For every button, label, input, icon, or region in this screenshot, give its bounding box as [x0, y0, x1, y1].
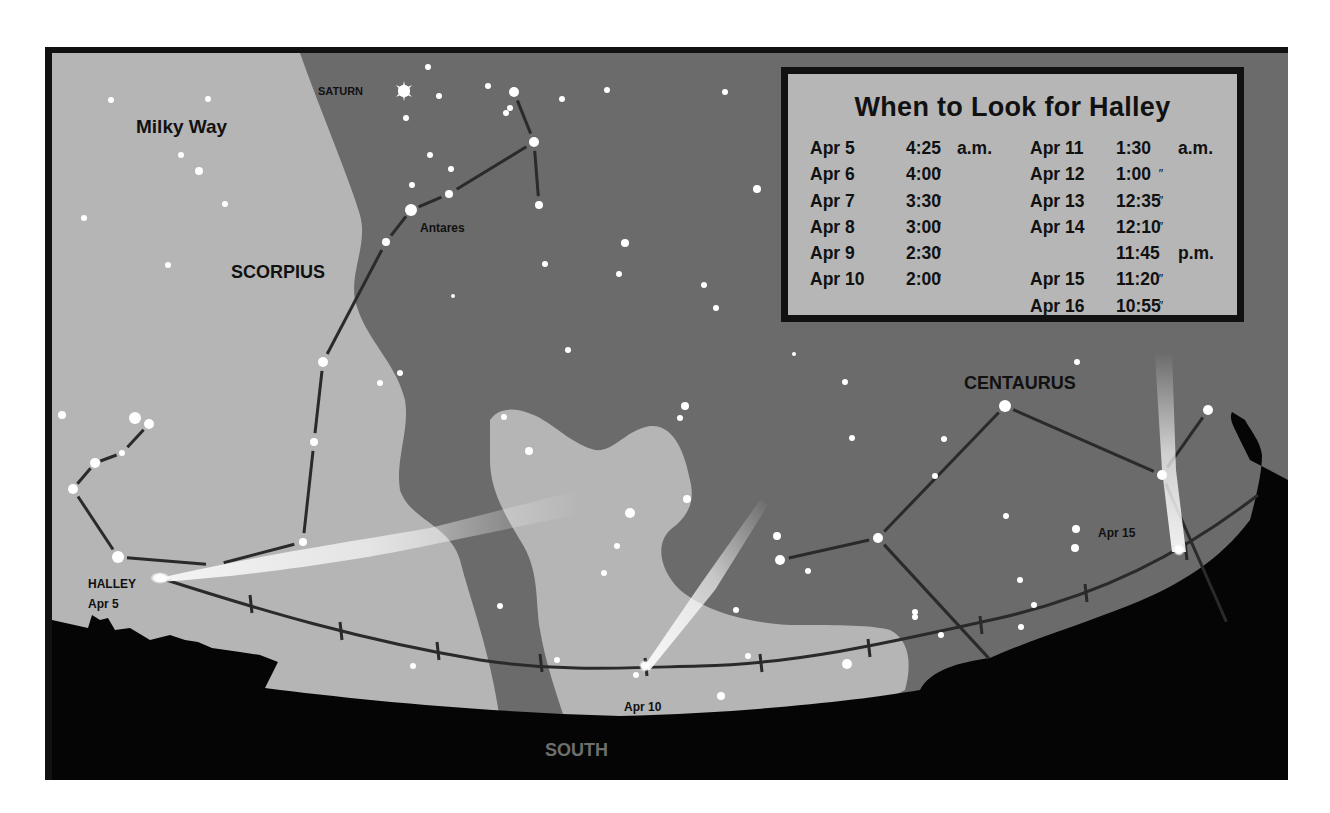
ecliptic-tick: [250, 595, 252, 613]
star: [497, 603, 503, 609]
viewing-times-title: When to Look for Halley: [788, 92, 1237, 123]
star: [681, 402, 689, 410]
scorpius-label: SCORPIUS: [231, 262, 325, 282]
viewing-time: 12:35: [1116, 191, 1161, 212]
viewing-date: Apr 12: [1030, 164, 1084, 185]
ditto-mark: ″: [1158, 166, 1163, 181]
star: [753, 185, 761, 193]
viewing-date: Apr 14: [1030, 217, 1084, 238]
star: [501, 414, 507, 420]
viewing-date: Apr 16: [1030, 296, 1084, 317]
viewing-date: Apr 6: [810, 164, 855, 185]
star: [621, 239, 629, 247]
ditto-mark: ″: [1158, 193, 1163, 208]
star: [165, 262, 171, 268]
star: [178, 152, 184, 158]
star: [503, 110, 509, 116]
ecliptic-tick: [1085, 584, 1087, 602]
ecliptic-tick: [760, 654, 762, 672]
apr10-label: Apr 10: [624, 700, 662, 714]
star: [90, 458, 100, 468]
star: [842, 659, 852, 669]
star: [938, 632, 944, 638]
star: [409, 182, 415, 188]
ditto-mark: ″: [936, 193, 941, 208]
star: [849, 435, 855, 441]
viewing-ampm: p.m.: [1178, 243, 1214, 264]
star: [713, 305, 719, 311]
viewing-date: Apr 10: [810, 269, 864, 290]
ditto-mark: ″: [936, 166, 941, 181]
star: [448, 166, 454, 172]
star: [614, 543, 620, 549]
ditto-mark: ″: [1158, 271, 1163, 286]
apr15-label: Apr 15: [1098, 526, 1136, 540]
ditto-mark: ″: [1158, 219, 1163, 234]
star: [601, 570, 607, 576]
star: [525, 447, 533, 455]
ecliptic-tick: [980, 616, 982, 634]
star: [1074, 359, 1080, 365]
star: [842, 379, 848, 385]
star: [733, 607, 739, 613]
star: [1031, 602, 1037, 608]
saturn-label: SATURN: [318, 85, 363, 97]
star: [565, 347, 571, 353]
star: [559, 96, 565, 102]
star: [1003, 513, 1009, 519]
star: [112, 551, 124, 563]
star: [1157, 470, 1167, 480]
star: [873, 533, 883, 543]
viewing-date: Apr 5: [810, 138, 855, 159]
star: [775, 555, 785, 565]
viewing-date: Apr 7: [810, 191, 855, 212]
centaurus-label: CENTAURUS: [964, 373, 1076, 393]
viewing-date: Apr 8: [810, 217, 855, 238]
star: [410, 663, 416, 669]
star: [485, 83, 491, 89]
star: [941, 436, 947, 442]
halley-date-label: Apr 5: [88, 597, 119, 611]
star: [792, 352, 796, 356]
star: [717, 692, 725, 700]
star: [554, 657, 560, 663]
star: [1017, 577, 1023, 583]
star: [625, 508, 635, 518]
star: [912, 614, 918, 620]
south-label: SOUTH: [545, 740, 608, 760]
star: [633, 672, 639, 678]
star: [445, 190, 453, 198]
milky-way-label: Milky Way: [136, 116, 228, 137]
viewing-time: 10:55: [1116, 296, 1161, 317]
star: [509, 87, 519, 97]
star: [1072, 525, 1080, 533]
star: [310, 438, 318, 446]
star: [205, 96, 211, 102]
star: [683, 495, 691, 503]
viewing-time: 11:45: [1116, 243, 1160, 264]
star: [999, 400, 1011, 412]
viewing-time: 4:25: [906, 138, 941, 159]
star: [299, 538, 307, 546]
star: [436, 93, 442, 99]
star: [805, 568, 811, 574]
viewing-ampm: a.m.: [1178, 138, 1213, 159]
star: [1071, 544, 1079, 552]
star: [397, 370, 403, 376]
star: [932, 473, 938, 479]
ecliptic-tick: [437, 642, 439, 660]
star: [405, 204, 417, 216]
viewing-time: 11:20: [1116, 269, 1160, 290]
ditto-mark: ″: [1158, 298, 1163, 313]
star: [377, 380, 383, 386]
star: [604, 87, 610, 93]
ecliptic-tick: [868, 639, 870, 657]
star: [119, 450, 125, 456]
star: [529, 137, 539, 147]
star: [144, 419, 154, 429]
star: [108, 97, 114, 103]
star: [222, 201, 228, 207]
viewing-date: Apr 15: [1030, 269, 1084, 290]
star: [195, 167, 203, 175]
viewing-date: Apr 13: [1030, 191, 1084, 212]
